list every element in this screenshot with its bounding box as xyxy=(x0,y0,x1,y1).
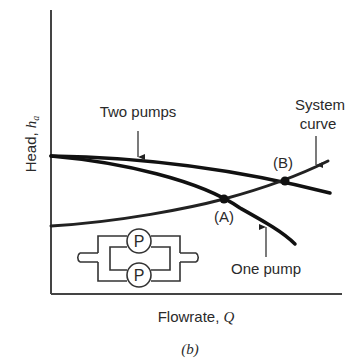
pump-bottom-label: P xyxy=(134,267,145,284)
operating-point-b xyxy=(281,177,290,186)
outlet-pipe xyxy=(180,253,196,262)
one-pump-curve xyxy=(51,156,295,244)
y-axis-label: Head, ha xyxy=(22,116,41,173)
operating-point-a xyxy=(220,195,229,204)
inlet-pipe-end xyxy=(78,253,80,262)
point-b-label: (B) xyxy=(273,154,293,171)
system-curve-label-line1: System xyxy=(295,96,345,113)
one-pump-label: One pump xyxy=(231,260,301,277)
inlet-pipe xyxy=(80,253,98,262)
outlet-pipe-end xyxy=(196,253,198,262)
x-axis-label: Flowrate, Q xyxy=(158,308,235,325)
system-curve-label-line2: curve xyxy=(300,115,337,132)
two-pumps-label: Two pumps xyxy=(100,103,177,120)
figure-caption: (b) xyxy=(181,341,199,358)
axes xyxy=(51,10,342,294)
pump-system-diagram: Head, ha (A) (B) Two pumps System curve … xyxy=(0,0,362,364)
pump-top-label: P xyxy=(134,233,145,250)
point-a-label: (A) xyxy=(214,208,234,225)
